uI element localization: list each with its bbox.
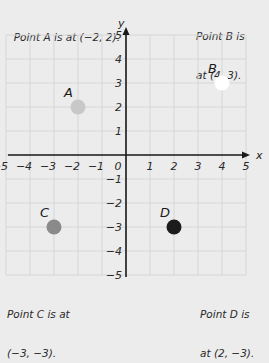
y-tick-label: 2 (115, 101, 122, 114)
x-tick-label: −4 (16, 160, 32, 173)
x-tick-label: 3 (195, 160, 202, 173)
point-label-b: B (208, 61, 217, 76)
point-d (167, 220, 182, 235)
point-label-a: A (63, 85, 73, 100)
y-tick-label: −2 (106, 197, 122, 210)
points: ABCD (40, 61, 230, 235)
y-tick-label: 3 (115, 77, 122, 90)
x-tick-label: −5 (0, 160, 8, 173)
x-tick-label: 1 (147, 160, 154, 173)
x-tick-label: 4 (219, 160, 226, 173)
y-tick-label: −4 (106, 245, 122, 258)
x-tick-label: −1 (88, 160, 104, 173)
y-tick-label: 4 (115, 53, 122, 66)
caption-point-d-line2: at (2, −3). (200, 347, 254, 360)
y-tick-label: 1 (115, 125, 122, 138)
point-label-c: C (40, 205, 50, 220)
point-b (215, 76, 230, 91)
x-tick-label: −3 (40, 160, 56, 173)
y-tick-label: −5 (106, 269, 122, 282)
point-c (47, 220, 62, 235)
point-a (71, 100, 86, 115)
x-tick-label: 5 (243, 160, 250, 173)
x-axis-label: x (255, 149, 263, 162)
point-label-d: D (160, 205, 170, 220)
y-tick-label: −1 (106, 173, 122, 186)
y-tick-label: 5 (115, 29, 122, 42)
y-tick-label: −3 (106, 221, 122, 234)
caption-point-c-line2: (−3, −3). (7, 347, 70, 360)
x-tick-label: 2 (171, 160, 178, 173)
x-tick-label: −2 (64, 160, 80, 173)
axes: x y (8, 17, 263, 277)
origin-label: 0 (115, 160, 122, 173)
